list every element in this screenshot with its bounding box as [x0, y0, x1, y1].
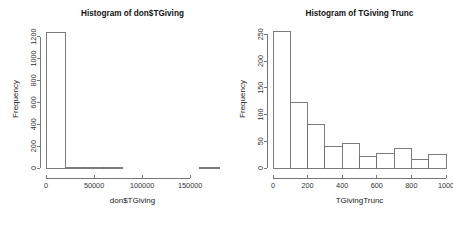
- histogram-left-svg: Histogram of don$TGiving0200400600800100…: [0, 0, 226, 225]
- x-axis-title: TGivingTrunc: [336, 196, 384, 205]
- y-axis-title: Frequency: [238, 80, 247, 118]
- y-tick-label: 200: [256, 55, 265, 67]
- chart-title-left: Histogram of don$TGiving: [81, 9, 184, 18]
- histogram-bar: [429, 155, 446, 168]
- histogram-bar: [200, 168, 219, 169]
- y-tick-label: 1200: [29, 28, 38, 44]
- x-tick-label: 50000: [84, 181, 104, 190]
- histogram-bar: [84, 168, 103, 169]
- histogram-bar: [46, 33, 65, 168]
- x-axis-title: don$TGiving: [110, 196, 155, 205]
- y-tick-label: 600: [29, 96, 38, 108]
- histogram-bar: [308, 125, 325, 168]
- histogram-bar: [360, 157, 377, 168]
- x-tick-label: 600: [371, 181, 383, 190]
- x-axis: 050000100000150000: [44, 175, 202, 190]
- histogram-bar: [342, 143, 359, 168]
- histogram-bar: [104, 168, 123, 169]
- y-tick-label: 400: [29, 118, 38, 130]
- y-tick-label: 800: [29, 74, 38, 86]
- x-tick-label: 1000: [438, 181, 453, 190]
- y-axis: 050100150200250: [256, 28, 267, 170]
- y-tick-label: 0: [256, 166, 265, 170]
- y-tick-label: 50: [256, 137, 265, 145]
- histogram-bar: [377, 153, 394, 168]
- y-axis-title: Frequency: [11, 80, 20, 118]
- histogram-bar: [290, 102, 307, 168]
- x-tick-label: 400: [336, 181, 348, 190]
- y-tick-label: 0: [29, 166, 38, 170]
- y-tick-label: 1000: [29, 50, 38, 66]
- chart-title-right: Histogram of TGiving Trunc: [306, 9, 414, 18]
- histogram-panel-right: Histogram of TGiving Trunc05010015020025…: [227, 0, 453, 225]
- histogram-bar: [65, 167, 84, 168]
- y-tick-label: 250: [256, 28, 265, 40]
- x-tick-label: 200: [302, 181, 314, 190]
- y-tick-label: 200: [29, 140, 38, 152]
- x-tick-label: 150000: [178, 181, 202, 190]
- y-tick-label: 150: [256, 82, 265, 94]
- y-axis: 020040060080010001200: [29, 28, 40, 170]
- bars-group: [46, 33, 219, 169]
- x-tick-label: 100000: [130, 181, 154, 190]
- bars-group: [273, 32, 446, 168]
- histogram-bar: [273, 32, 290, 168]
- histogram-bar: [325, 146, 342, 168]
- y-tick-label: 100: [256, 108, 265, 120]
- x-tick-label: 800: [405, 181, 417, 190]
- x-tick-label: 0: [271, 181, 275, 190]
- x-tick-label: 0: [44, 181, 48, 190]
- histogram-panel-left: Histogram of don$TGiving0200400600800100…: [0, 0, 226, 225]
- histogram-bar: [411, 159, 428, 168]
- figure-canvas: Histogram of don$TGiving0200400600800100…: [0, 0, 453, 225]
- histogram-bar: [394, 148, 411, 168]
- histogram-right-svg: Histogram of TGiving Trunc05010015020025…: [227, 0, 453, 225]
- x-axis: 02004006008001000: [271, 175, 453, 190]
